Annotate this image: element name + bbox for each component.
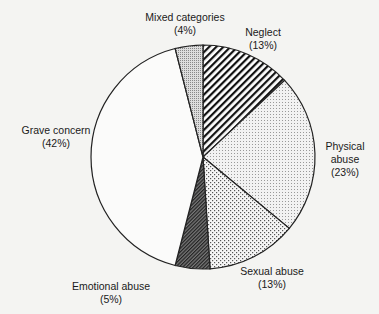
label-pct: (13%) (245, 39, 281, 52)
label-text: Grave concern (22, 124, 91, 137)
label-text: Sexual abuse (240, 265, 304, 278)
label-pct: (4%) (145, 24, 224, 37)
label-neglect: Neglect (13%) (245, 26, 281, 52)
label-text: Physical (325, 140, 364, 153)
label-text: Neglect (245, 26, 281, 39)
label-text: abuse (325, 153, 364, 166)
label-mixed-categories: Mixed categories (4%) (145, 11, 224, 37)
label-pct: (5%) (72, 293, 150, 306)
label-sexual-abuse: Sexual abuse (13%) (240, 265, 304, 291)
label-physical-abuse: Physical abuse (23%) (325, 140, 364, 179)
label-pct: (13%) (240, 278, 304, 291)
pie-chart (0, 0, 379, 314)
label-text: Mixed categories (145, 11, 224, 24)
label-grave-concern: Grave concern (42%) (22, 124, 91, 150)
label-emotional-abuse: Emotional abuse (5%) (72, 280, 150, 306)
label-text: Emotional abuse (72, 280, 150, 293)
label-pct: (23%) (325, 166, 364, 179)
label-pct: (42%) (22, 137, 91, 150)
